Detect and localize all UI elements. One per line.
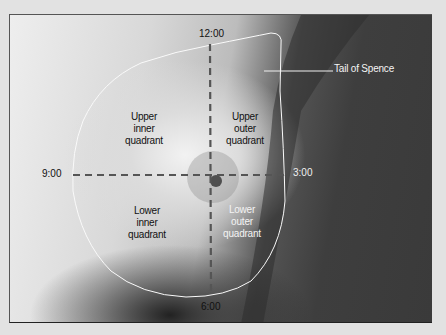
label-upper-inner-quadrant: Upper inner quadrant — [114, 111, 174, 147]
label-3-oclock: 3:00 — [293, 167, 312, 178]
diagram-overlay — [10, 15, 432, 323]
label-9-oclock: 9:00 — [42, 168, 61, 179]
breast-outline — [73, 33, 285, 297]
label-lower-outer-quadrant: Lower outer quadrant — [212, 204, 272, 240]
label-tail-of-spence: Tail of Spence — [334, 63, 394, 75]
label-6-oclock: 6:00 — [201, 301, 220, 312]
label-lower-inner-quadrant: Lower inner quadrant — [117, 205, 177, 241]
anatomy-photo-frame — [9, 14, 432, 323]
label-upper-outer-quadrant: Upper outer quadrant — [215, 111, 275, 147]
vertical-axis-line — [210, 44, 211, 291]
label-12-oclock: 12:00 — [199, 28, 224, 39]
